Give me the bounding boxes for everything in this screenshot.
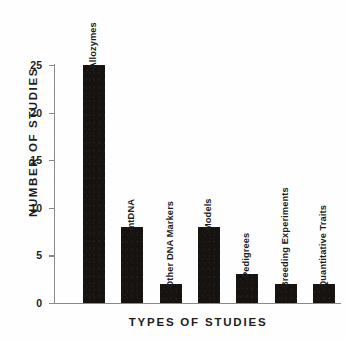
y-axis-line xyxy=(54,64,55,304)
y-tick-5: 5 xyxy=(49,255,54,256)
bar xyxy=(121,227,143,303)
x-axis-line xyxy=(54,303,341,304)
bar xyxy=(236,274,258,303)
plot-area: 0510152025 AllozymesmtDNAOther DNA Marke… xyxy=(54,64,341,304)
bar-label: Pedigrees xyxy=(242,233,251,278)
bar xyxy=(83,65,105,303)
bar-label: mtDNA xyxy=(127,199,136,231)
y-tick-15: 15 xyxy=(49,160,54,161)
bar-label: Other DNA Markers xyxy=(166,201,175,288)
y-tick-25: 25 xyxy=(49,65,54,66)
y-tick-20: 20 xyxy=(49,113,54,114)
bar-label: Models xyxy=(204,198,213,231)
bar-label: Breeding Experiments xyxy=(281,187,290,288)
y-tick-label: 0 xyxy=(36,297,42,309)
y-tick-label: 10 xyxy=(30,202,42,214)
x-axis-title: TYPES OF STUDIES xyxy=(54,316,342,328)
y-tick-label: 5 xyxy=(36,249,42,261)
bar-chart-figure: NUMBER OF STUDIES 0510152025 Allozymesmt… xyxy=(0,0,345,341)
y-tick-0: 0 xyxy=(49,303,54,304)
y-tick-label: 15 xyxy=(30,154,42,166)
y-tick-10: 10 xyxy=(49,208,54,209)
y-tick-label: 25 xyxy=(30,59,42,71)
bar xyxy=(198,227,220,303)
y-tick-label: 20 xyxy=(30,107,42,119)
bar-label: Quantitative Traits xyxy=(319,205,328,288)
bar-label: Allozymes xyxy=(89,22,98,69)
